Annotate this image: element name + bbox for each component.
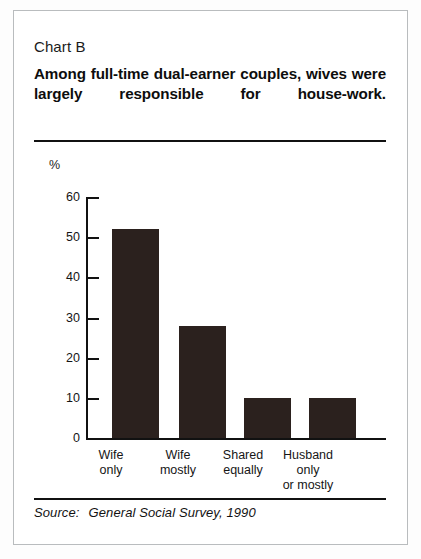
source-text: General Social Survey, 1990 [89, 505, 256, 520]
bar-wife-only [112, 229, 159, 438]
category-line: or mostly [263, 478, 353, 493]
y-axis-tick-label: 40 [40, 270, 80, 284]
y-axis-unit-label: % [49, 158, 60, 172]
chart-label: Chart B [34, 38, 86, 55]
chart-headline: Among full-time dual-earner couples, wiv… [34, 64, 386, 123]
chart-card: Chart B Among full-time dual-earner coup… [13, 10, 408, 545]
y-axis-tick-label: 60 [40, 190, 80, 204]
bar-husband-only-or-mostly [309, 398, 356, 438]
divider-bottom [34, 498, 386, 500]
y-axis-tick-label: 10 [40, 391, 80, 405]
y-axis-tick-label: 20 [40, 351, 80, 365]
category-line: only [263, 463, 353, 478]
bar-shared-equally [244, 398, 291, 438]
divider-top [34, 140, 386, 142]
page-background: Chart B Among full-time dual-earner coup… [0, 0, 421, 559]
y-axis-tick-label: 30 [40, 311, 80, 325]
bar-series [88, 197, 388, 438]
y-axis-tick-label: 0 [40, 431, 80, 445]
x-axis-category-label-3: Husband only or mostly [263, 448, 353, 493]
source-prefix: Source: [34, 505, 80, 520]
source-note: Source:General Social Survey, 1990 [34, 505, 256, 520]
bar-chart-plot: % 60 50 40 30 20 10 0 Wif [34, 151, 394, 481]
y-axis-tick-label: 50 [40, 230, 80, 244]
category-line: Husband [263, 448, 353, 463]
x-axis-line [86, 438, 386, 440]
bar-wife-mostly [179, 326, 226, 438]
